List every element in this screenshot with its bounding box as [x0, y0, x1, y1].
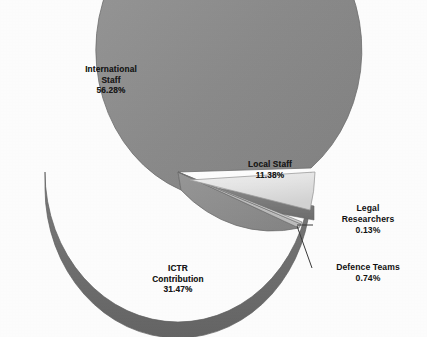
slice-label-ictr-contribution: ICTR Contribution 31.47%: [128, 263, 228, 295]
slice-label-international-staff-line2: Staff: [63, 75, 159, 86]
slice-label-ictr-contribution-line2: Contribution: [128, 274, 228, 285]
pie-slices: [96, 0, 362, 231]
slice-label-international-staff-line1: International: [63, 64, 159, 75]
callout-value-legal-researchers: 0.13%: [316, 225, 420, 236]
callout-value-defence-teams: 0.74%: [313, 273, 423, 284]
slice-value-international-staff: 56.28%: [63, 85, 159, 96]
slice-label-international-staff: International Staff 56.28%: [63, 64, 159, 96]
callout-label-defence-teams-line1: Defence Teams: [313, 262, 423, 273]
slice-label-local-staff: Local Staff 11.38%: [228, 159, 312, 180]
slice-label-local-staff-line1: Local Staff: [228, 159, 312, 170]
callout-label-legal-researchers-line1: Legal: [316, 203, 420, 214]
callout-label-legal-researchers: Legal Researchers 0.13%: [316, 203, 420, 236]
slice-label-ictr-contribution-line1: ICTR: [128, 263, 228, 274]
slice-value-local-staff: 11.38%: [228, 170, 312, 181]
callout-label-legal-researchers-line2: Researchers: [316, 214, 420, 225]
slice-value-ictr-contribution: 31.47%: [128, 284, 228, 295]
callout-label-defence-teams: Defence Teams 0.74%: [313, 262, 423, 284]
pie-chart: International Staff 56.28% Local Staff 1…: [0, 0, 427, 337]
